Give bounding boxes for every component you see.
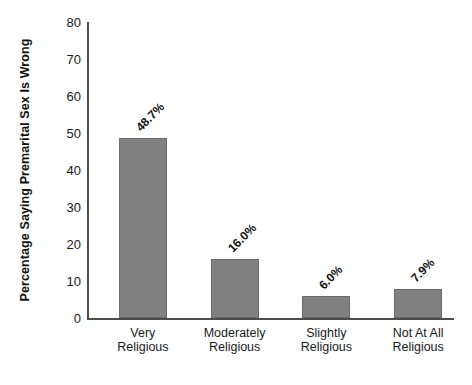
category-label-line: Slightly — [281, 326, 373, 340]
x-axis-category-label: ModeratelyReligious — [189, 326, 281, 354]
bar[interactable] — [211, 259, 259, 318]
bar-value-label: 6.0% — [316, 263, 345, 292]
y-axis-tick-label: 70 — [67, 53, 81, 66]
y-axis-tick-label: 50 — [67, 127, 81, 140]
y-axis-tick-label: 10 — [67, 275, 81, 288]
bar-chart: Percentage Saying Premarital Sex Is Wron… — [0, 0, 472, 385]
x-axis-category-label: VeryReligious — [97, 326, 189, 354]
bar[interactable] — [119, 138, 167, 318]
bar-group[interactable]: 48.7% — [119, 22, 167, 318]
y-axis-line — [87, 22, 89, 318]
bar-group[interactable]: 6.0% — [302, 22, 350, 318]
bar-value-label: 48.7% — [133, 100, 167, 134]
x-axis-category-label: Not At AllReligious — [372, 326, 464, 354]
y-axis-tick-label: 0 — [74, 312, 81, 325]
y-axis-tick-label: 80 — [67, 16, 81, 29]
category-label-line: Religious — [281, 340, 373, 354]
plot-area: 01020304050607080 48.7%16.0%6.0%7.9% Ver… — [87, 22, 454, 318]
x-axis-category-label: SlightlyReligious — [281, 326, 373, 354]
category-label-line: Religious — [372, 340, 464, 354]
y-axis-tick-label: 30 — [67, 201, 81, 214]
y-axis-tick-label: 40 — [67, 164, 81, 177]
y-axis-title: Percentage Saying Premarital Sex Is Wron… — [12, 10, 38, 330]
category-label-line: Not At All — [372, 326, 464, 340]
bar-group[interactable]: 7.9% — [394, 22, 442, 318]
bar[interactable] — [394, 289, 442, 318]
category-label-line: Very — [97, 326, 189, 340]
x-axis-line — [87, 318, 454, 320]
bar-value-label: 16.0% — [225, 221, 259, 255]
bar-group[interactable]: 16.0% — [211, 22, 259, 318]
category-label-line: Moderately — [189, 326, 281, 340]
bar[interactable] — [302, 296, 350, 318]
y-axis-tick-label: 60 — [67, 90, 81, 103]
y-axis-tick-label: 20 — [67, 238, 81, 251]
category-label-line: Religious — [189, 340, 281, 354]
bar-value-label: 7.9% — [408, 256, 437, 285]
category-label-line: Religious — [97, 340, 189, 354]
